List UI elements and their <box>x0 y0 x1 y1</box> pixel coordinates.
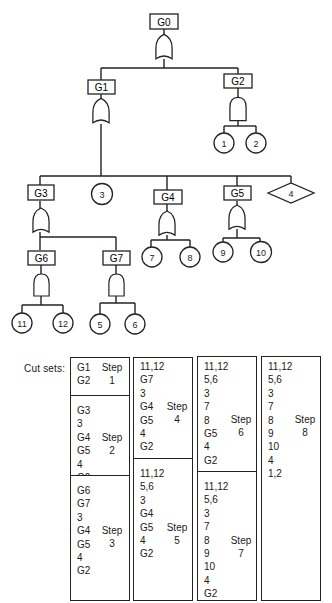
svg-text:G2: G2 <box>231 76 245 87</box>
or-gate-icon <box>156 34 172 58</box>
event-label-5: 5 <box>97 320 102 330</box>
cut-set-list: G33G4G54G2 <box>77 404 90 484</box>
event-label-2: 2 <box>253 139 258 149</box>
step-label: Step8 <box>290 413 320 439</box>
step-label: Step7 <box>226 534 256 560</box>
or-gate-icon <box>159 211 175 235</box>
svg-text:G5: G5 <box>231 188 245 199</box>
svg-text:G6: G6 <box>35 253 49 264</box>
gate-G6: G6 <box>28 251 55 296</box>
step-label: Step1 <box>97 361 127 387</box>
cut-set-list: 11,125,637891041,2 <box>268 360 292 481</box>
svg-text:G7: G7 <box>110 253 124 264</box>
cut-set-step-2: G33G4G54G2 Step2 <box>70 395 130 476</box>
cut-sets-label: Cut sets: <box>24 363 65 374</box>
event-label-11: 11 <box>17 319 26 329</box>
svg-text:G3: G3 <box>34 188 48 199</box>
cut-set-step-3: G6G73G4G54G2 Step3 <box>70 475 130 601</box>
svg-text:G1: G1 <box>95 82 109 93</box>
cut-set-list: G1G2 <box>77 361 90 388</box>
step-label: Step3 <box>97 524 127 550</box>
and-gate-icon <box>34 274 49 296</box>
gate-G5: G5 <box>224 186 251 229</box>
or-gate-icon <box>229 205 245 229</box>
cut-set-step-6: 11,125,6378G54G2 Step6 <box>197 356 257 472</box>
and-gate-icon <box>230 97 246 120</box>
gate-G0: G0 <box>150 14 178 59</box>
cut-set-list: 11,125,6378G54G2 <box>204 360 228 467</box>
and-gate-icon <box>109 274 124 296</box>
svg-text:G4: G4 <box>161 192 175 203</box>
event-label-3: 3 <box>99 190 104 200</box>
cut-set-list: 11,125,63789104G2 <box>204 480 228 601</box>
step-label: Step5 <box>162 521 192 547</box>
cut-set-step-5: 11,125,63G4G54G2 Step5 <box>133 458 193 601</box>
step-label: Step2 <box>97 431 127 457</box>
event-label-12: 12 <box>58 319 68 329</box>
cut-set-step-8: 11,125,637891041,2 Step8 <box>261 356 321 601</box>
fault-tree-diagram: G0 G1 G2 G3 G4 G5 G6 G7 <box>0 0 332 345</box>
event-label-9: 9 <box>220 248 225 258</box>
step-label: Step6 <box>226 413 256 439</box>
gate-G3: G3 <box>28 185 54 232</box>
event-label-4: 4 <box>288 189 293 199</box>
step-label: Step4 <box>162 400 192 426</box>
event-label-1: 1 <box>221 139 226 149</box>
event-label-6: 6 <box>132 320 137 330</box>
cut-set-list: 11,12G73G4G54G2 <box>140 360 164 454</box>
cut-set-step-1: G1G2 Step1 <box>70 357 130 396</box>
gate-G7: G7 <box>103 251 130 296</box>
event-label-8: 8 <box>187 253 192 263</box>
cut-set-list: 11,125,63G4G54G2 <box>140 467 164 561</box>
cut-set-list: G6G73G4G54G2 <box>77 484 90 578</box>
cut-set-step-7: 11,125,63789104G2 Step7 <box>197 471 257 601</box>
svg-text:G0: G0 <box>157 17 171 28</box>
gate-G2: G2 <box>224 74 252 121</box>
or-gate-icon <box>33 208 49 232</box>
event-label-10: 10 <box>256 248 266 258</box>
event-label-7: 7 <box>149 253 154 263</box>
cut-set-step-4: 11,12G73G4G54G2 Step4 <box>133 357 193 459</box>
or-gate-icon <box>93 98 109 122</box>
gate-G1: G1 <box>88 80 115 123</box>
gate-G4: G4 <box>154 190 182 235</box>
